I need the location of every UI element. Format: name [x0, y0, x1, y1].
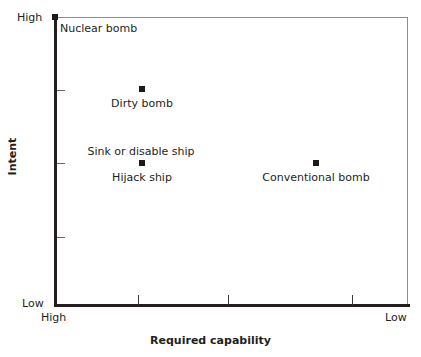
data-point-label: Dirty bomb: [111, 97, 173, 110]
x-axis-high-label: High: [41, 311, 66, 324]
data-point-label: Nuclear bomb: [60, 22, 137, 35]
data-point-marker: [139, 160, 145, 166]
intent-vs-capability-chart: High Low High Low Required capability In…: [0, 0, 421, 357]
data-point-marker: [313, 160, 319, 166]
y-axis-line: [54, 16, 57, 307]
y-axis-tick: [57, 90, 65, 91]
x-axis-tick: [228, 295, 229, 305]
x-axis-low-label: Low: [385, 311, 407, 324]
data-point-label: Conventional bomb: [262, 171, 369, 184]
x-axis-line: [54, 304, 410, 307]
y-axis-tick: [57, 163, 65, 164]
data-point-marker: [139, 86, 145, 92]
y-axis-low-label: Low: [22, 297, 44, 310]
data-point-marker: [52, 14, 58, 20]
x-axis-title: Required capability: [0, 334, 421, 347]
chart-annotation: Sink or disable ship: [87, 145, 194, 158]
data-point-label: Hijack ship: [112, 171, 172, 184]
x-axis-tick: [138, 295, 139, 305]
y-axis-title: Intent: [6, 127, 19, 187]
y-axis-tick: [57, 237, 65, 238]
y-axis-high-label: High: [17, 11, 42, 24]
plot-area: [56, 17, 408, 305]
x-axis-tick: [352, 295, 353, 305]
